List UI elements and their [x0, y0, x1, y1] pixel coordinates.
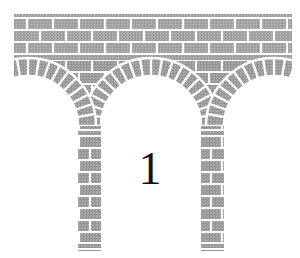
figure-canvas: 1	[0, 0, 300, 258]
left-pier-brickwork	[58, 118, 101, 251]
deck-brickwork	[14, 12, 292, 60]
masonry-body	[0, 12, 300, 251]
aqueduct-illustration	[0, 0, 300, 258]
right-pier-brickwork	[201, 118, 244, 251]
